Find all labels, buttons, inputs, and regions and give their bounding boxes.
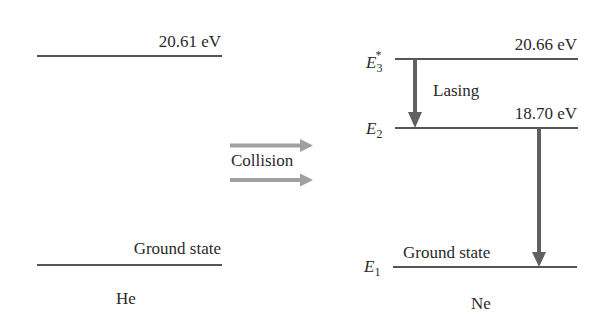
arrow-layer [0,0,603,329]
decay-arrow-down [532,128,546,267]
collision-arrow-upper [230,139,313,152]
collision-arrow-lower [230,174,313,187]
lasing-arrow-down [408,59,422,128]
